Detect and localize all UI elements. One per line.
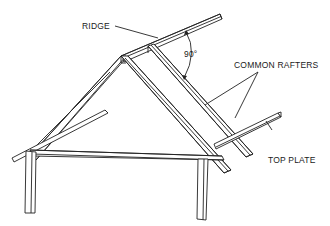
common-rafters-label: COMMON RAFTERS xyxy=(234,60,319,70)
top-plate-label: TOP PLATE xyxy=(268,155,316,165)
roof-framing-drawing xyxy=(0,0,330,226)
left-post xyxy=(25,151,36,213)
angle-label: 90° xyxy=(184,49,197,59)
roof-framing-diagram: RIDGE 90° COMMON RAFTERS TOP PLATE xyxy=(0,0,330,226)
ridge-leader xyxy=(115,26,158,38)
ridge-board xyxy=(121,14,222,62)
right-post xyxy=(197,159,208,220)
tie-beam xyxy=(30,150,224,160)
ridge-label: RIDGE xyxy=(82,21,110,31)
